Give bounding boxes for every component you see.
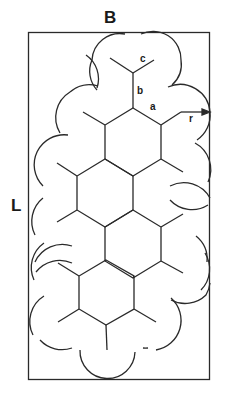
cloud-outline xyxy=(30,31,211,378)
hexagon-1 xyxy=(105,108,161,176)
spokes xyxy=(57,58,183,350)
spoke-label-b: b xyxy=(137,85,143,96)
length-label-l: L xyxy=(11,196,21,216)
spoke-label-c: c xyxy=(140,53,146,64)
radius-label-r: r xyxy=(189,113,193,124)
side-label-a: a xyxy=(150,101,156,112)
hexagon-cloud-diagram xyxy=(0,0,225,399)
hexagon-4 xyxy=(79,260,134,325)
hexagon-3 xyxy=(105,210,161,278)
hexagon-2 xyxy=(77,159,133,227)
arrow-head xyxy=(202,109,210,115)
width-label-b: B xyxy=(104,8,116,28)
